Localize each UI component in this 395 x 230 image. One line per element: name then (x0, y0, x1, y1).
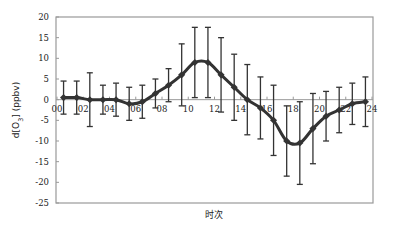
x-tick-label: 02 (78, 104, 89, 114)
y-tick-label: 5 (44, 74, 49, 84)
x-tick-label: 00 (52, 104, 63, 114)
x-tick-label: 04 (104, 104, 115, 114)
chart: 20151050-5-10-15-20-25 00020406081012141… (0, 0, 395, 230)
y-tick-label: 15 (38, 33, 49, 43)
x-tick-label: 20 (314, 104, 325, 114)
y-tick-label: -25 (35, 198, 49, 208)
y-tick-label: -15 (35, 157, 49, 167)
y-tick-label: 10 (38, 53, 49, 63)
y-tick-label: 20 (38, 12, 49, 22)
x-tick-label: 24 (367, 104, 378, 114)
y-tick-label: -5 (41, 115, 49, 125)
x-axis-title: 时次 (205, 209, 223, 220)
x-tick-label: 08 (157, 104, 168, 114)
y-tick-label: -10 (35, 136, 49, 146)
x-tick-label: 18 (288, 104, 299, 114)
x-tick-label: 14 (235, 104, 246, 114)
y-tick-label: -20 (35, 177, 49, 187)
y-axis-title: d[O3] (ppbv) (11, 82, 25, 138)
x-tick-label: 10 (183, 104, 194, 114)
y-tick-label: 0 (44, 95, 49, 105)
